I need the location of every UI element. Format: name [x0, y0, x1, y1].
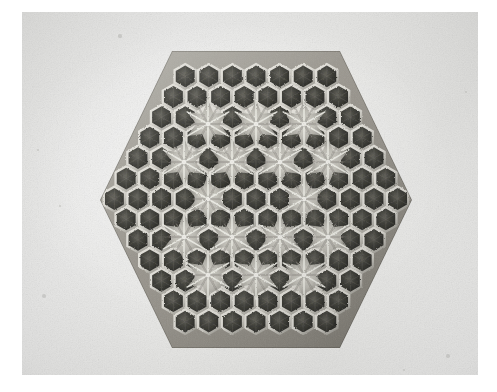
panel-clip-group — [100, 51, 412, 348]
screenshot-canvas — [0, 0, 497, 392]
honeycomb-panel — [22, 12, 478, 375]
photograph — [22, 12, 478, 375]
honeycomb-subject-layer — [22, 12, 478, 375]
panel-texture — [100, 51, 412, 348]
